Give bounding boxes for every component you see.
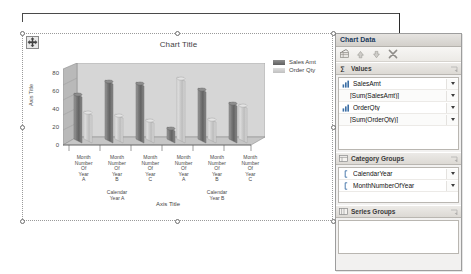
resize-handle-middle-left[interactable] [20,125,25,130]
section-label-values: Values [351,65,450,72]
group-bracket-icon [342,170,350,178]
legend-swatch-order-qty [273,68,285,73]
y-tick-40: 40 [45,106,59,112]
move-down-icon[interactable] [371,49,382,60]
cat-line: B [100,177,133,183]
values-row-label: [Sum(OrderQty)] [350,116,446,123]
resize-handle-bottom-left[interactable] [20,219,25,224]
collapse-chevron-icon[interactable] [450,208,458,216]
series-group-icon [339,207,348,216]
legend-item-order-qty[interactable]: Order Qty [273,67,316,73]
category-groups-row-label: MonthNumberOfYear [353,182,446,189]
resize-handle-top-left[interactable] [20,31,25,36]
legend-item-sales-amt[interactable]: Sales Amt [273,59,316,65]
category-groups-row-dropdown[interactable] [446,181,458,191]
chart-data-toolbar[interactable] [336,47,461,62]
chart-data-panel-title: Chart Data [336,34,461,47]
category-label: Month Number Of Year C [134,155,167,183]
resize-handle-bottom-middle[interactable] [175,219,180,224]
cat-line: B [200,177,233,183]
legend-swatch-sales-amt [273,60,285,65]
category-label: Month Number Of Year C [234,155,267,183]
move-up-icon[interactable] [355,49,366,60]
y-tick-80: 80 [45,70,59,76]
values-row-label: [Sum(SalesAmt)] [350,92,446,99]
chart-field-icon [342,80,350,88]
series-groups-list[interactable] [338,220,459,254]
chart-data-panel[interactable]: Chart Data [335,33,462,271]
section-header-values[interactable]: Σ Values [336,62,461,75]
y-tick-20: 20 [45,124,59,130]
category-axis-labels: Month Number Of Year A Month Number Of Y… [67,155,267,183]
add-field-icon[interactable] [339,49,350,60]
section-header-series-groups[interactable]: Series Groups [336,205,461,218]
category-groups-row-dropdown[interactable] [446,169,458,179]
values-row-dropdown[interactable] [446,91,458,101]
values-list[interactable]: SalesAmt [Sum(SalesAmt)] OrderQty [338,77,459,150]
callout-connector-line [399,13,400,35]
cat-line: C [234,177,267,183]
group-label: Calendar Year A [67,190,167,201]
category-groups-row-calendaryear[interactable]: CalendarYear [339,168,458,180]
delete-icon[interactable] [387,49,398,60]
resize-handle-bottom-right[interactable] [331,219,336,224]
collapse-chevron-icon[interactable] [450,155,458,163]
values-row-dropdown[interactable] [446,79,458,89]
category-groups-row-label: CalendarYear [353,170,446,177]
group-bracket-icon [342,182,350,190]
resize-handle-top-middle[interactable] [175,31,180,36]
chart-field-icon [342,104,350,112]
values-row-dropdown[interactable] [446,103,458,113]
move-handle-icon[interactable] [26,36,39,49]
report-body-outline [22,13,400,22]
legend-label-sales-amt: Sales Amt [289,59,316,65]
values-row-label: SalesAmt [353,80,446,87]
values-row-salesamt[interactable]: SalesAmt [339,78,458,90]
cat-line: A [67,177,100,183]
y-axis-title[interactable]: Axis Title [28,84,34,106]
cat-line: C [134,177,167,183]
section-label-series-groups: Series Groups [351,208,450,215]
legend-label-order-qty: Order Qty [289,67,315,73]
values-row-orderqty[interactable]: OrderQty [339,102,458,114]
category-label: Month Number Of Year B [100,155,133,183]
plot-area[interactable] [63,63,265,153]
chart-title[interactable]: Chart Title [23,40,334,49]
plot-svg [63,63,265,153]
section-header-category-groups[interactable]: Category Groups [336,152,461,165]
section-label-category-groups: Category Groups [351,155,450,162]
values-row-salesamt-expression[interactable]: [Sum(SalesAmt)] [339,90,458,102]
collapse-chevron-icon[interactable] [450,65,458,73]
category-groups-list[interactable]: CalendarYear MonthNumberOfYear [338,167,459,203]
x-axis-title[interactable]: Axis Title [23,201,313,207]
category-label: Month Number Of Year B [200,155,233,183]
designer-surface: Chart Title Axis Title 80 60 40 20 0 [0,0,471,274]
chart-legend[interactable]: Sales Amt Order Qty [273,59,316,75]
category-group-icon [339,154,348,163]
cat-line: A [167,177,200,183]
group-label: Calendar Year B [167,190,267,201]
chart-region[interactable]: Chart Title Axis Title 80 60 40 20 0 [22,33,333,221]
svg-text:Σ: Σ [340,65,345,73]
resize-handle-middle-right[interactable] [331,125,336,130]
resize-handle-top-right[interactable] [331,31,336,36]
sigma-icon: Σ [339,64,348,73]
category-groups-row-monthnumberofyear[interactable]: MonthNumberOfYear [339,180,458,192]
category-label: Month Number Of Year A [167,155,200,183]
category-label: Month Number Of Year A [67,155,100,183]
values-row-dropdown[interactable] [446,115,458,125]
values-row-orderqty-expression[interactable]: [Sum(OrderQty)] [339,114,458,126]
values-row-label: OrderQty [353,104,446,111]
y-tick-60: 60 [45,88,59,94]
y-tick-0: 0 [45,142,59,148]
